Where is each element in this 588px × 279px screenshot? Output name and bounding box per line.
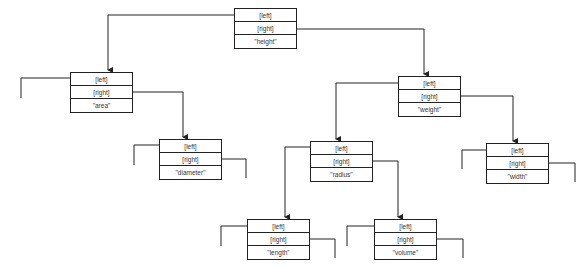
tree-node-weight: [left] [right] "weight"	[398, 76, 461, 117]
tree-node-radius: [left] [right] "radius"	[310, 141, 373, 182]
tree-node-volume: [left] [right] "volume"	[374, 219, 437, 260]
left-field: [left]	[399, 77, 460, 90]
right-field: [right]	[399, 90, 460, 103]
left-field: [left]	[71, 73, 132, 86]
right-field: [right]	[248, 233, 309, 246]
node-value: "length"	[248, 246, 309, 259]
tree-node-area: [left] [right] "area"	[70, 72, 133, 113]
tree-node-width: [left] [right] "width"	[486, 143, 549, 184]
edge-height-right-weight	[284, 29, 424, 74]
node-value: "area"	[71, 99, 132, 112]
edge-height-left-area	[108, 15, 246, 70]
tree-node-diameter: [left] [right] "diameter"	[159, 139, 222, 180]
right-field: [right]	[311, 155, 372, 168]
left-field: [left]	[311, 142, 372, 155]
right-field: [right]	[160, 153, 221, 166]
tree-node-length: [left] [right] "length"	[247, 219, 310, 260]
right-field: [right]	[375, 233, 436, 246]
left-field: [left]	[487, 144, 548, 157]
node-value: "radius"	[311, 168, 372, 181]
left-field: [left]	[248, 220, 309, 233]
node-value: "volume"	[375, 246, 436, 259]
node-value: "diameter"	[160, 166, 221, 179]
tree-node-height: [left] [right] "height"	[234, 8, 297, 49]
left-field: [left]	[160, 140, 221, 153]
node-value: "weight"	[399, 103, 460, 116]
left-field: [left]	[235, 9, 296, 22]
node-value: "height"	[235, 35, 296, 48]
right-field: [right]	[235, 22, 296, 35]
node-value: "width"	[487, 170, 548, 183]
left-field: [left]	[375, 220, 436, 233]
right-field: [right]	[71, 86, 132, 99]
right-field: [right]	[487, 157, 548, 170]
